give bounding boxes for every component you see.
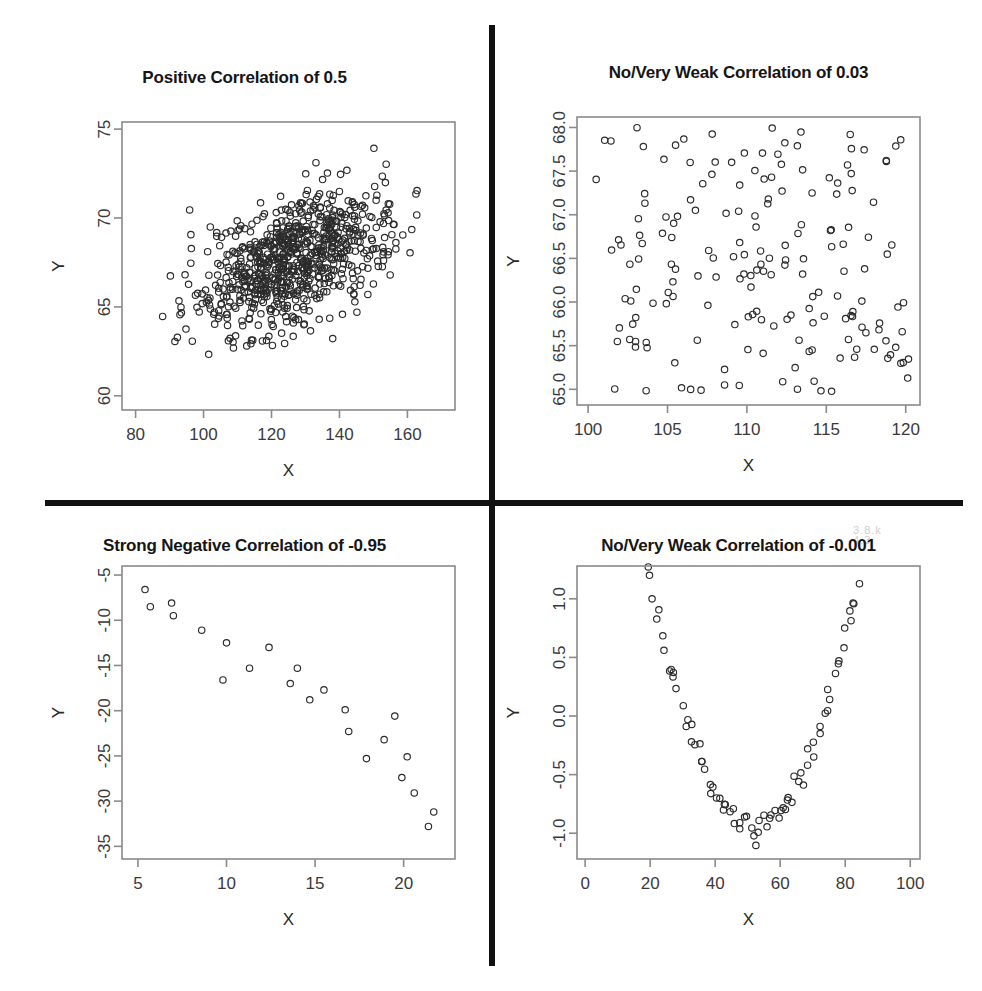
y-tick-label: 68.0 — [550, 111, 569, 144]
y-tick-label: 0.0 — [550, 704, 569, 728]
panel-strong-negative-correlation: Strong Negative Correlation of -0.95 510… — [0, 506, 489, 971]
x-tick-label: 120 — [892, 420, 920, 439]
x-tick-label: 20 — [394, 874, 413, 893]
x-tick-label: 100 — [896, 874, 924, 893]
x-tick-label: 160 — [393, 425, 421, 444]
y-tick-label: -30 — [95, 789, 114, 814]
y-tick-label: -25 — [95, 744, 114, 769]
y-tick-label: -20 — [95, 698, 114, 723]
y-axis-label: Y — [49, 260, 68, 271]
x-tick-label: 140 — [325, 425, 353, 444]
y-tick-label: -5 — [95, 567, 114, 582]
y-tick-label: 60 — [95, 386, 114, 405]
x-axis-label: X — [743, 456, 754, 475]
plot-no-correlation-positive: 10010511011512065.065.566.066.567.067.56… — [495, 40, 982, 500]
x-tick-label: 20 — [641, 874, 660, 893]
x-tick-label: 100 — [574, 420, 602, 439]
panel-positive-correlation: Positive Correlation of 0.5 801001201401… — [0, 40, 489, 500]
plot-no-correlation-quadratic: 020406080100-1.0-0.50.00.51.0XY — [495, 506, 982, 971]
y-tick-label: -35 — [95, 834, 114, 859]
x-tick-label: 15 — [306, 874, 325, 893]
plot-frame — [122, 566, 455, 859]
y-tick-label: 0.5 — [550, 646, 569, 670]
y-tick-label: 70 — [95, 209, 114, 228]
x-tick-label: 100 — [189, 425, 217, 444]
y-tick-label: 75 — [95, 120, 114, 139]
y-tick-label: -15 — [95, 653, 114, 678]
x-tick-label: 10 — [217, 874, 236, 893]
x-tick-label: 105 — [653, 420, 681, 439]
y-tick-label: 65.0 — [550, 373, 569, 406]
x-tick-label: 0 — [580, 874, 589, 893]
x-tick-label: 120 — [257, 425, 285, 444]
y-axis-label: Y — [504, 255, 523, 266]
x-tick-label: 80 — [126, 425, 145, 444]
figure-canvas: 3.8.k4.3 Positive Correlation of 0.5 801… — [0, 0, 982, 991]
y-tick-label: -0.5 — [550, 760, 569, 789]
plot-positive-correlation: 8010012014016060657075XY — [0, 40, 489, 500]
x-axis-label: X — [283, 910, 294, 929]
panel-no-correlation-positive: No/Very Weak Correlation of 0.03 1001051… — [495, 40, 982, 500]
y-axis-label: Y — [49, 707, 68, 718]
scatter-points — [645, 564, 863, 849]
x-axis-label: X — [743, 910, 754, 929]
x-tick-label: 5 — [133, 874, 142, 893]
y-tick-label: 65.5 — [550, 329, 569, 362]
x-tick-label: 60 — [771, 874, 790, 893]
y-tick-label: -10 — [95, 608, 114, 633]
y-axis-label: Y — [504, 707, 523, 718]
x-tick-label: 80 — [836, 874, 855, 893]
x-axis-label: X — [283, 461, 294, 480]
x-tick-label: 115 — [813, 420, 840, 439]
scatter-points — [159, 145, 420, 357]
plot-strong-negative-correlation: 5101520-35-30-25-20-15-10-5XY — [0, 506, 489, 971]
y-tick-label: 66.5 — [550, 242, 569, 275]
y-tick-label: 65 — [95, 297, 114, 316]
y-tick-label: 67.5 — [550, 155, 569, 188]
x-tick-label: 110 — [733, 420, 760, 439]
panel-no-correlation-quadratic: No/Very Weak Correlation of -0.001 02040… — [495, 506, 982, 971]
x-tick-label: 40 — [706, 874, 725, 893]
scatter-points — [593, 124, 912, 394]
y-tick-label: 1.0 — [550, 587, 569, 611]
scatter-points — [142, 586, 437, 829]
y-tick-label: -1.0 — [550, 819, 569, 848]
y-tick-label: 66.0 — [550, 285, 569, 318]
y-tick-label: 67.0 — [550, 198, 569, 231]
plot-frame — [577, 566, 920, 859]
